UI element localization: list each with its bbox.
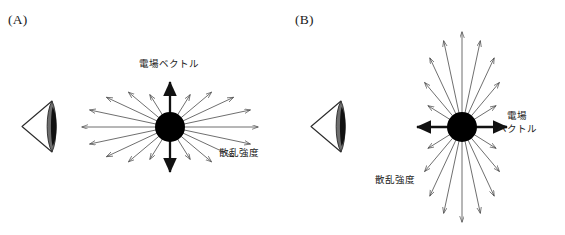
scattering-intensity-label: 散乱強度 (219, 147, 259, 160)
scatterer-particle (155, 112, 185, 142)
electric-field-vector-label-line1: 電場 (507, 110, 527, 121)
scatterer-particle (447, 112, 477, 142)
eye-icon (311, 101, 346, 152)
electric-field-vector-label: 電場ベクトル (139, 58, 199, 71)
scattering-intensity-label: 散乱強度 (375, 174, 415, 187)
panel-a-graphic (0, 0, 282, 235)
electric-field-vector-label: 電場 ベクトル (491, 110, 543, 135)
panel-b: (B) (283, 0, 565, 235)
electric-field-vector-label-line2: ベクトル (497, 123, 537, 134)
panel-a: (A) (0, 0, 282, 235)
eye-icon (22, 101, 57, 152)
figure-root: (A) (0, 0, 565, 235)
